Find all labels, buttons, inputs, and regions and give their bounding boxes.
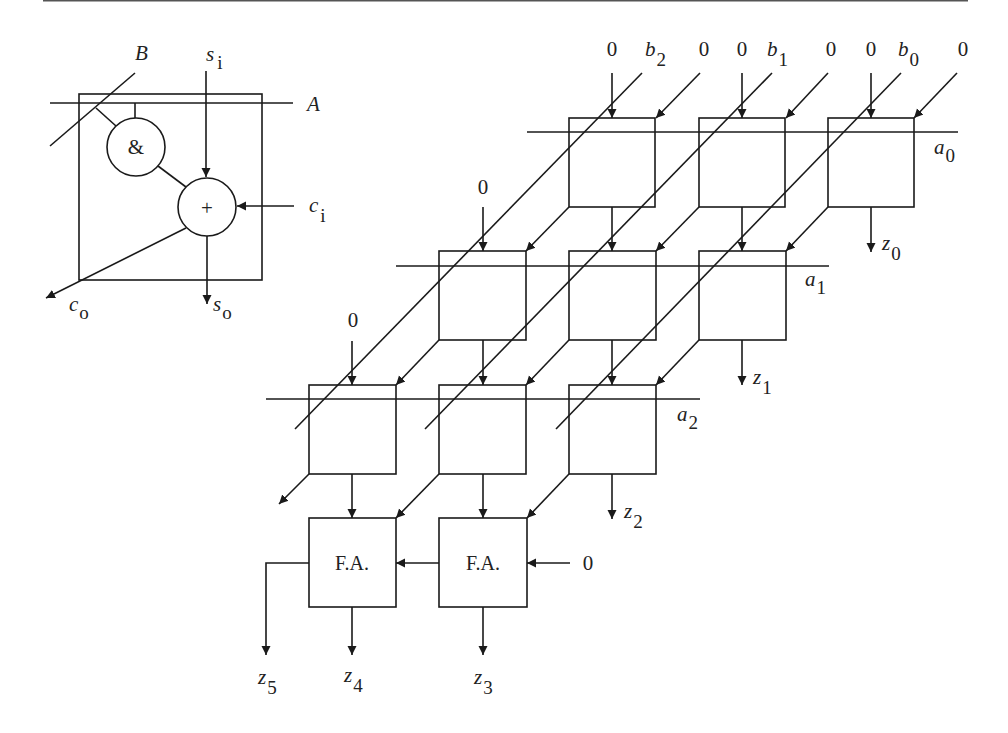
carry-r0c1-r1c1 [656, 207, 699, 251]
a1-label: a1 [805, 267, 826, 298]
carry-r0c2-r1c2 [786, 207, 828, 251]
fa-zero-label: 0 [583, 551, 594, 575]
zero-carry-in-c1 [786, 73, 828, 118]
cell-r1-c0 [439, 251, 526, 340]
z1-label: z1 [752, 365, 772, 398]
carry-zero-label-c1: 0 [826, 37, 837, 61]
zero-carry-in-c0 [656, 73, 700, 118]
cell-legend: & + B A si ci co so [46, 41, 326, 323]
b2-label: b2 [645, 37, 666, 70]
cell-r1-c1 [569, 251, 656, 340]
b1-label: b1 [767, 37, 788, 70]
zero-label-r2: 0 [348, 308, 359, 332]
z3-label: z3 [473, 665, 493, 698]
label-si: si [206, 42, 222, 73]
carry-r2c1-fa1 [396, 474, 439, 518]
z2-label: z2 [623, 499, 643, 532]
carry-r2c2-fa0 [527, 474, 569, 518]
b0-label: b0 [898, 37, 919, 70]
full-adder-0-label: F.A. [466, 552, 500, 574]
multiplier-diagram: & + B A si ci co so F.A. [0, 0, 1008, 733]
z5-arrow [266, 563, 309, 655]
adder-symbol: + [201, 196, 213, 220]
zero-label-r1: 0 [478, 175, 489, 199]
cell-r1-c2 [699, 251, 786, 340]
and-symbol: & [128, 135, 144, 159]
zero-label-c1: 0 [737, 37, 748, 61]
cell-box [79, 94, 262, 280]
multiplier-array: F.A. F.A. [257, 37, 968, 698]
a2-label: a2 [677, 402, 698, 433]
label-A: A [305, 92, 320, 116]
carry-r1c2-r2c2 [656, 340, 699, 385]
zero-carry-in-c2 [914, 73, 957, 118]
carry-zero-label-c0: 0 [699, 37, 710, 61]
z0-label: z0 [881, 231, 901, 264]
carry-out-r2c0 [279, 474, 309, 504]
full-adder-1-label: F.A. [335, 552, 369, 574]
label-B: B [135, 41, 148, 65]
carry-r0c0-r1c0 [526, 207, 569, 251]
carry-r1c1-r2c1 [526, 340, 569, 385]
label-so: so [213, 292, 232, 323]
carry-r1c0-r2c0 [396, 340, 439, 385]
zero-label-c0: 0 [607, 37, 618, 61]
label-ci: ci [309, 193, 326, 226]
zero-label-c2: 0 [866, 37, 877, 61]
z5-label: z5 [257, 665, 277, 698]
z4-label: z4 [343, 663, 363, 696]
a0-label: a0 [934, 135, 955, 166]
carry-zero-label-c2: 0 [958, 37, 969, 61]
label-co: co [69, 292, 89, 323]
